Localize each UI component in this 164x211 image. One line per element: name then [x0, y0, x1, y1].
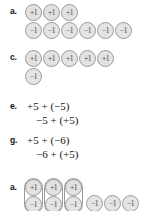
counter-chip-positive[interactable]: +1	[61, 4, 78, 21]
zero-pair-capsule[interactable]: +1 −1	[64, 178, 83, 211]
equation-line: −6 + (+5)	[27, 147, 78, 161]
counter-chip-negative[interactable]: −1	[115, 22, 132, 39]
problem-label-a-top: a.	[10, 7, 17, 16]
chip-row-positive: +1 +1 +1 +1 +1	[25, 50, 115, 67]
counter-chip-negative[interactable]: −1	[104, 195, 121, 211]
counter-chip-positive[interactable]: +1	[79, 50, 96, 67]
problem-label-e: e.	[10, 102, 17, 111]
counter-chip-positive[interactable]: +1	[43, 50, 60, 67]
problem-g-body: +5 + (−6) −6 + (+5)	[27, 133, 78, 161]
problem-e-body: +5 + (−5) −5 + (+5)	[27, 99, 78, 127]
counter-chip-positive[interactable]: +1	[97, 50, 114, 67]
counter-chip-negative[interactable]: −1	[45, 196, 62, 211]
counter-chip-negative[interactable]: −1	[25, 68, 42, 85]
counter-chip-positive[interactable]: +1	[25, 50, 42, 67]
counter-chip-positive[interactable]: +1	[25, 179, 42, 196]
problem-a-bottom-body: +1 −1 +1 −1 +1 −1 −1 −1 −1	[24, 178, 140, 211]
counter-chip-positive[interactable]: +1	[25, 4, 42, 21]
problem-c-body: +1 +1 +1 +1 +1 −1	[25, 50, 115, 85]
counter-chip-negative[interactable]: −1	[122, 195, 139, 211]
counter-chip-negative[interactable]: −1	[86, 195, 103, 211]
counter-chip-positive[interactable]: +1	[61, 50, 78, 67]
problem-a-top-body: +1 +1 +1 −1 −1 −1 −1 −1 −1	[25, 4, 133, 39]
zero-pair-capsule[interactable]: +1 −1	[44, 178, 63, 211]
counter-chip-positive[interactable]: +1	[45, 179, 62, 196]
counter-chip-positive[interactable]: +1	[43, 4, 60, 21]
equation-line: +5 + (−6)	[27, 133, 78, 147]
counter-chip-positive[interactable]: +1	[65, 179, 82, 196]
problem-label-a-bottom: a.	[10, 183, 17, 192]
counter-chip-negative[interactable]: −1	[25, 196, 42, 211]
counter-chip-negative[interactable]: −1	[43, 22, 60, 39]
problem-label-c: c.	[10, 53, 17, 62]
counter-chip-negative[interactable]: −1	[25, 22, 42, 39]
chip-row-negative: −1	[25, 68, 115, 85]
counter-chip-negative[interactable]: −1	[97, 22, 114, 39]
counter-chip-negative[interactable]: −1	[61, 22, 78, 39]
equation-line: −5 + (+5)	[27, 113, 78, 127]
zero-pair-row: +1 −1 +1 −1 +1 −1 −1 −1 −1	[24, 178, 140, 211]
worksheet-page: a. +1 +1 +1 −1 −1 −1 −1 −1 −1 c. +1 +1	[0, 0, 164, 211]
counter-chip-negative[interactable]: −1	[65, 196, 82, 211]
problem-label-g: g.	[10, 136, 17, 145]
zero-pair-capsule[interactable]: +1 −1	[24, 178, 43, 211]
loose-negative-chip-group: −1 −1 −1	[86, 178, 140, 211]
chip-row-negative: −1 −1 −1 −1 −1 −1	[25, 22, 133, 39]
equation-line: +5 + (−5)	[27, 99, 78, 113]
counter-chip-negative[interactable]: −1	[79, 22, 96, 39]
chip-row-positive: +1 +1 +1	[25, 4, 133, 21]
